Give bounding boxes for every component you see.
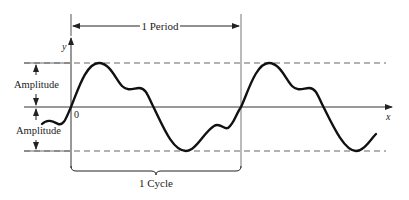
origin-label: 0 — [74, 109, 79, 120]
cycle-label: 1 Cycle — [139, 177, 173, 189]
cycle-brace — [71, 166, 241, 175]
y-axis-label: y — [61, 41, 67, 52]
amplitude-bottom-label: Amplitude — [16, 125, 61, 136]
x-axis-label: x — [385, 111, 391, 122]
waveform-diagram: 1 Period Amplitude Amplitude y x 0 1 Cyc… — [0, 0, 409, 200]
period-label: 1 Period — [142, 20, 179, 32]
amplitude-top-label: Amplitude — [14, 79, 59, 90]
